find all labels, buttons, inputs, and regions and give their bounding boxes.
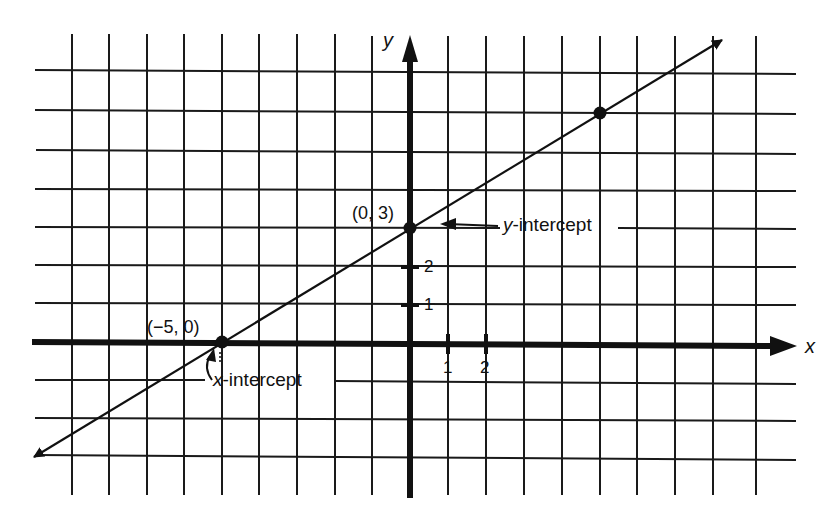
x-intercept-annotation: x-intercept	[213, 370, 302, 389]
x-tick-label-2: 2	[480, 359, 489, 376]
coordinate-plane	[0, 0, 832, 522]
y-intercept-annotation: y-intercept	[503, 215, 592, 234]
y-axis	[401, 35, 419, 498]
grid	[35, 34, 796, 495]
point-label-y-intercept: (0, 3)	[352, 204, 394, 222]
y-intercept-variable: y	[503, 214, 513, 235]
x-axis-label: x	[805, 336, 815, 356]
x-intercept-text: -intercept	[223, 369, 302, 390]
x-intercept-variable: x	[213, 369, 223, 390]
point-label-x-intercept: (−5, 0)	[147, 318, 200, 336]
point-y-intercept	[404, 222, 417, 235]
plotted-line	[34, 40, 722, 457]
point-x-intercept	[216, 336, 229, 349]
y-intercept-text: -intercept	[513, 214, 592, 235]
y-tick-label-2: 2	[424, 258, 433, 275]
x-tick-label-1: 1	[443, 359, 452, 376]
y-tick-label-1: 1	[424, 296, 433, 313]
point-5-6	[594, 107, 607, 120]
y-axis-label: y	[383, 30, 393, 50]
